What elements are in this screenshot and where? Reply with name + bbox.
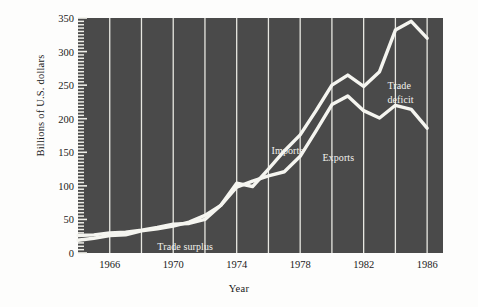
- y-tick-label: 200: [34, 113, 74, 124]
- x-tick-label: 1970: [143, 259, 203, 270]
- x-tick-label: 1982: [334, 259, 394, 270]
- x-tick-label: 1974: [207, 259, 267, 270]
- trade-deficit-label-line2: deficit: [387, 94, 413, 105]
- y-tick-label: 150: [34, 147, 74, 158]
- y-tick-label: 300: [34, 46, 74, 57]
- y-tick-label: 350: [34, 13, 74, 24]
- trade-chart-figure: Billions of U.S. dollars Year 0501001502…: [0, 0, 478, 307]
- trade-deficit-label-line1: Trade: [387, 80, 410, 91]
- y-tick-label: 250: [34, 80, 74, 91]
- imports-label: Imports: [272, 145, 304, 156]
- x-tick-label: 1966: [80, 259, 140, 270]
- exports-label: Exports: [322, 152, 354, 163]
- y-tick-label: 50: [34, 214, 74, 225]
- x-tick-label: 1978: [270, 259, 330, 270]
- y-tick-label: 0: [34, 248, 74, 259]
- y-tick-label: 100: [34, 180, 74, 191]
- x-tick-label: 1986: [397, 259, 457, 270]
- y-axis-tick-labels: 050100150200250300350: [30, 0, 74, 307]
- trade-surplus-label: Trade surplus: [157, 241, 213, 252]
